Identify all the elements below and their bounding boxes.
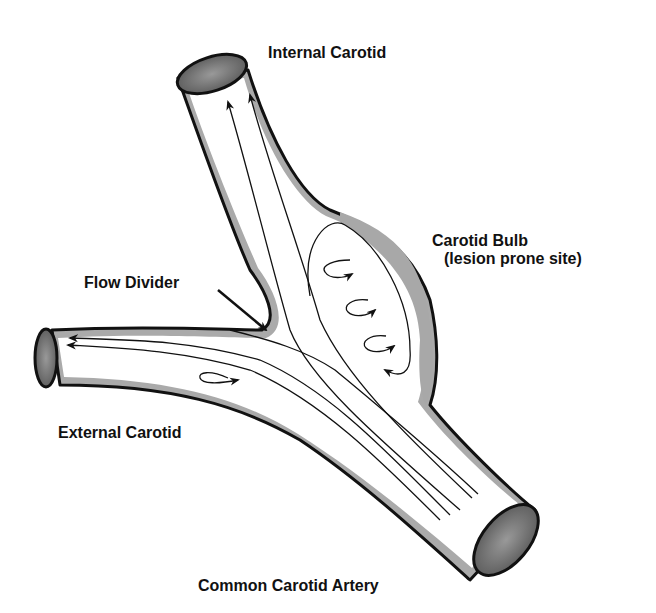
carotid-bulb-title: Carotid Bulb bbox=[432, 232, 528, 249]
external-carotid-label: External Carotid bbox=[58, 424, 182, 442]
external-carotid-opening bbox=[35, 329, 57, 387]
vessel-body bbox=[52, 70, 535, 580]
vessel-lumen bbox=[58, 78, 524, 568]
flow-divider-pointer-arrow bbox=[218, 290, 266, 330]
flow-divider-label: Flow Divider bbox=[84, 274, 179, 292]
carotid-bifurcation-diagram bbox=[0, 0, 656, 613]
internal-carotid-label: Internal Carotid bbox=[268, 44, 386, 62]
carotid-bulb-label: Carotid Bulb (lesion prone site) bbox=[432, 232, 582, 268]
carotid-bulb-note: (lesion prone site) bbox=[432, 250, 582, 268]
common-carotid-label: Common Carotid Artery bbox=[198, 577, 379, 595]
